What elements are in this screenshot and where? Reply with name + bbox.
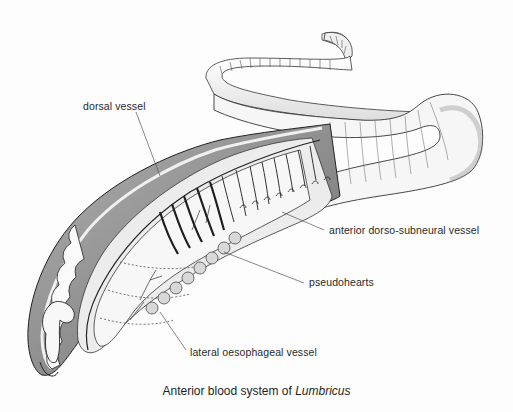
figure-caption: Anterior blood system of Lumbricus — [0, 384, 513, 398]
label-pseudohearts: pseudohearts — [309, 276, 374, 288]
caption-genus: Lumbricus — [295, 384, 350, 398]
label-lateral-oesophageal-vessel: lateral oesophageal vessel — [190, 346, 317, 358]
leader-dorsal — [136, 112, 160, 176]
diagram-canvas: dorsal vessel anterior dorso-subneural v… — [0, 0, 513, 412]
worm-anterior-dissected — [28, 124, 340, 376]
leader-lateral — [160, 312, 186, 350]
label-dorsal-vessel: dorsal vessel — [83, 100, 146, 112]
leader-pseudohearts — [224, 252, 304, 283]
label-anterior-dorso-subneural-vessel: anterior dorso-subneural vessel — [329, 224, 479, 236]
caption-prefix: Anterior blood system of — [162, 384, 295, 398]
